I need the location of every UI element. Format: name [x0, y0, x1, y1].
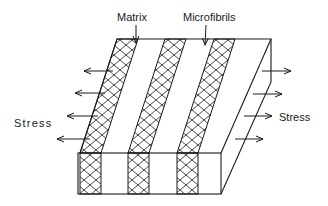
stress-arrows-right [235, 71, 291, 139]
matrix-label: Matrix [117, 11, 147, 23]
fibril-bands-top [80, 39, 235, 153]
fibril-band-3-front [177, 153, 198, 194]
fibril-band-3-top [177, 39, 235, 153]
fibril-bands-front [80, 153, 198, 194]
fibril-band-1-top [80, 39, 138, 153]
microfibrils-pointer-arrow-icon [205, 25, 206, 45]
microfibrils-label: Microfibrils [183, 11, 236, 23]
fibril-band-2-front [128, 153, 149, 194]
composite-block-diagram: Matrix Microfibrils Stress Stress [0, 0, 328, 206]
stress-left-label: Stress [14, 117, 52, 129]
fibril-band-2-top [128, 39, 186, 153]
stress-right-label: Stress [279, 111, 311, 123]
fibril-band-1-front [80, 153, 101, 194]
